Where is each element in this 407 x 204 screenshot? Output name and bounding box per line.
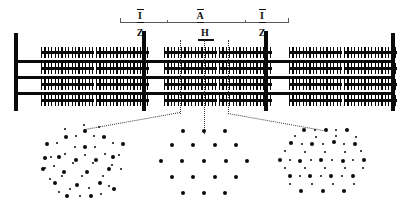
thick-filament-dot (288, 174, 293, 179)
thin-filament-dot (304, 167, 306, 169)
thick-filament-dot (345, 128, 350, 133)
thick-filament-dot (308, 174, 313, 179)
thick-filament-dot (342, 189, 347, 194)
thin-filament-dot (294, 135, 296, 137)
thick-filament-dot (341, 159, 346, 164)
thick-filament-dot (351, 174, 356, 179)
thin-filament-dot (362, 167, 364, 169)
thin-filament-dot (314, 129, 316, 131)
thick-filament-dot (310, 142, 315, 147)
thin-filament-dot (324, 167, 326, 169)
thick-filament-dot (332, 140, 337, 145)
thin-filament-dot (335, 129, 337, 131)
thin-filament-dot (289, 159, 291, 161)
thick-filament-dot (353, 142, 358, 147)
thick-filament-dot (289, 141, 294, 146)
thin-filament-dot (311, 183, 313, 185)
thin-filament-dot (344, 167, 346, 169)
thin-filament-dot (324, 151, 326, 153)
thick-filament-dot (299, 189, 304, 194)
thin-filament-dot (343, 143, 345, 145)
thin-filament-dot (331, 159, 333, 161)
thin-filament-dot (284, 150, 286, 152)
thin-filament-dot (304, 151, 306, 153)
thick-filament-dot (319, 158, 324, 163)
thin-filament-dot (344, 151, 346, 153)
thin-filament-dot (315, 136, 317, 138)
thin-filament-dot (341, 175, 343, 177)
thick-filament-dot (302, 128, 307, 133)
thin-filament-dot (352, 159, 354, 161)
thin-filament-dot (289, 183, 291, 185)
thin-filament-dot (299, 175, 301, 177)
thick-filament-dot (362, 158, 367, 163)
thin-filament-dot (320, 175, 322, 177)
cross-section-cross-section-overlap-right (0, 0, 407, 204)
thick-filament-dot (298, 159, 303, 164)
thick-filament-dot (321, 189, 326, 194)
thick-filament-dot (329, 174, 334, 179)
thin-filament-dot (301, 143, 303, 145)
thin-filament-dot (310, 159, 312, 161)
thin-filament-dot (332, 183, 334, 185)
sarcomere-diagram: IAI ZHZ (0, 0, 407, 204)
thick-filament-dot (324, 128, 329, 133)
thick-filament-dot (278, 158, 283, 163)
thin-filament-dot (360, 150, 362, 152)
thin-filament-dot (322, 143, 324, 145)
thin-filament-dot (284, 167, 286, 169)
thin-filament-dot (335, 135, 337, 137)
thin-filament-dot (355, 136, 357, 138)
thin-filament-dot (353, 183, 355, 185)
